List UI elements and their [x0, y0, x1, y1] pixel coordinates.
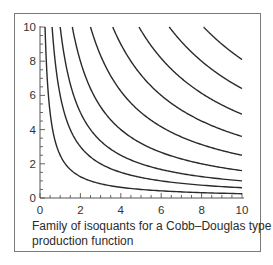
y-tick-label: 0 — [30, 192, 36, 204]
isoquant-curve — [113, 27, 242, 136]
x-tick-label: 10 — [236, 204, 249, 216]
figure-caption: Family of isoquants for a Cobb–Douglas t… — [32, 219, 262, 249]
x-tick-label: 6 — [158, 204, 164, 216]
isoquant-curve — [45, 27, 242, 194]
caption-line-1: Family of isoquants for a Cobb–Douglas t… — [32, 219, 262, 234]
isoquant-curve — [169, 27, 242, 89]
y-tick-label: 8 — [30, 55, 36, 67]
isoquant-curve — [91, 27, 243, 155]
x-tick-label: 2 — [77, 204, 83, 216]
isoquant-curve — [139, 27, 242, 114]
isoquant-curve — [204, 27, 242, 59]
axes — [40, 26, 244, 198]
y-tick-label: 10 — [23, 21, 36, 33]
x-tick-label: 8 — [198, 204, 204, 216]
caption-line-2: production function — [32, 234, 262, 249]
y-tick-label: 4 — [30, 124, 37, 136]
y-tick-label: 2 — [30, 158, 36, 170]
y-tick-label: 6 — [30, 89, 36, 101]
isoquant-curve — [60, 27, 242, 181]
x-tick-label: 4 — [118, 204, 125, 216]
isoquant-curve — [52, 27, 242, 188]
x-tick-label: 0 — [37, 204, 43, 216]
isoquant-curves — [45, 27, 242, 194]
